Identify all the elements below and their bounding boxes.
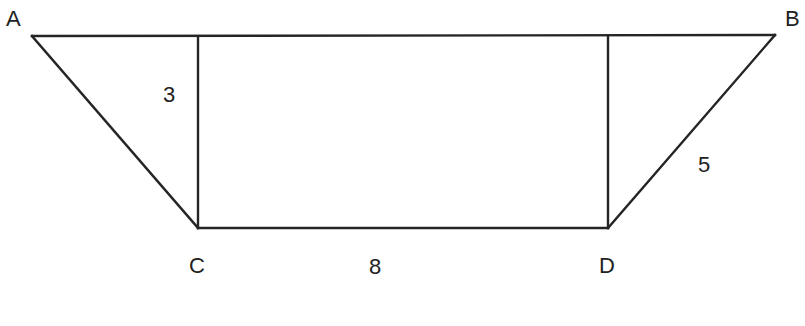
geometry-figure: A B C D 3 8 5 xyxy=(0,0,805,326)
measure-label-side-db: 5 xyxy=(698,154,710,176)
edge-DB xyxy=(608,35,775,228)
measure-label-base-cd: 8 xyxy=(369,256,381,278)
vertex-label-d: D xyxy=(599,255,615,277)
measure-label-height-left: 3 xyxy=(163,84,175,106)
edge-AC xyxy=(32,36,198,228)
edge-AB xyxy=(32,35,775,36)
figure-canvas xyxy=(0,0,805,326)
vertex-label-c: C xyxy=(189,255,205,277)
vertex-label-a: A xyxy=(6,8,21,30)
vertex-label-b: B xyxy=(785,8,800,30)
